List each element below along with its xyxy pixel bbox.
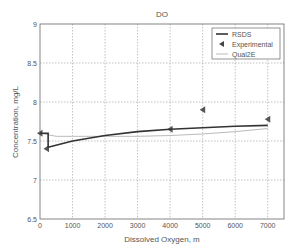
chart: DO 010002000300040005000600070006.577.58… <box>0 0 300 249</box>
legend-rsds-label: RSDS <box>232 31 252 38</box>
x-tick-label: 4000 <box>162 222 178 229</box>
y-tick-label: 9 <box>33 21 37 28</box>
x-axis-label: Dissolved Oxygen, m <box>124 235 200 244</box>
chart-title: DO <box>156 10 168 19</box>
y-tick-label: 8 <box>33 99 37 106</box>
legend-experimental-label: Experimental <box>232 41 273 49</box>
x-tick-label: 7000 <box>260 222 276 229</box>
x-tick-label: 5000 <box>195 222 211 229</box>
x-tick-label: 6000 <box>227 222 243 229</box>
legend: RSDS Experimental Qual2E <box>212 28 280 59</box>
x-tick-label: 1000 <box>65 222 81 229</box>
y-tick-label: 6.5 <box>27 216 37 223</box>
y-axis-label: Concentration, mg/L <box>11 85 20 158</box>
y-tick-label: 7.5 <box>27 138 37 145</box>
experimental-marker-icon <box>265 116 271 123</box>
y-tick-label: 8.5 <box>27 60 37 67</box>
x-tick-label: 0 <box>38 222 42 229</box>
x-tick-label: 2000 <box>97 222 113 229</box>
x-tick-label: 3000 <box>130 222 146 229</box>
y-tick-label: 7 <box>33 177 37 184</box>
legend-qual2e-label: Qual2E <box>232 51 256 59</box>
